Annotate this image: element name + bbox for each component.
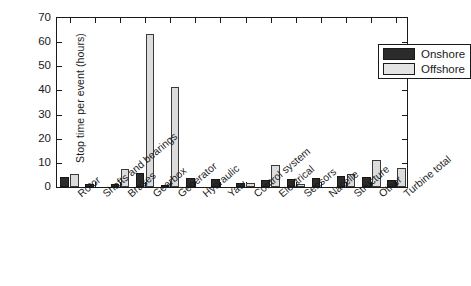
y-tick-mark [57, 187, 62, 188]
legend-swatch-offshore [383, 63, 415, 75]
bar-group [107, 18, 132, 187]
bar-offshore [70, 174, 79, 187]
y-tick-label: 70 [38, 11, 51, 23]
y-tick-label: 40 [38, 83, 51, 95]
y-tick-label: 10 [38, 156, 51, 168]
y-tick-label: 30 [38, 108, 51, 120]
x-axis-labels: RotorShafts and bearingsBrakesGearboxGen… [56, 190, 408, 286]
x-axis-label-control-system: Control system [251, 190, 259, 199]
x-axis-label-yaw: Yaw [225, 190, 233, 199]
x-axis-label-shafts-and-bearings: Shafts and bearings [100, 190, 108, 199]
y-tick-label: 0 [45, 180, 51, 192]
bar-group [308, 18, 333, 187]
x-axis-label-structure: Structure [351, 190, 359, 199]
x-axis-label-gearbox: Gearbox [150, 190, 158, 199]
legend-swatch-onshore [383, 48, 415, 60]
x-axis-label-hydraulic: Hydraulic [200, 190, 208, 199]
x-axis-label-electrical: Electrical [276, 190, 284, 199]
bar-group [233, 18, 258, 187]
legend-label: Onshore [421, 48, 465, 60]
legend-item-offshore: Offshore [383, 63, 465, 75]
x-axis-label-nacelle: Nacelle [326, 190, 334, 199]
x-axis-label-sensors: Sensors [301, 190, 309, 199]
bar-group [82, 18, 107, 187]
y-tick-label: 50 [38, 59, 51, 71]
legend-label: Offshore [421, 63, 465, 75]
chart-legend: OnshoreOffshore [378, 44, 471, 79]
legend-item-onshore: Onshore [383, 48, 465, 60]
x-axis-label-generator: Generator [175, 190, 183, 199]
x-axis-label-other: Other [376, 190, 384, 199]
x-axis-label-rotor: Rotor [75, 190, 83, 199]
x-axis-label-turbine-total: Turbine total [401, 190, 409, 199]
bar-group [57, 18, 82, 187]
bar-group [258, 18, 283, 187]
bar-group [158, 18, 183, 187]
x-axis-label-brakes: Brakes [125, 190, 133, 199]
bar-group [334, 18, 359, 187]
bar-group [183, 18, 208, 187]
y-tick-label: 20 [38, 132, 51, 144]
bar-onshore [60, 177, 69, 187]
y-tick-label: 60 [38, 35, 51, 47]
